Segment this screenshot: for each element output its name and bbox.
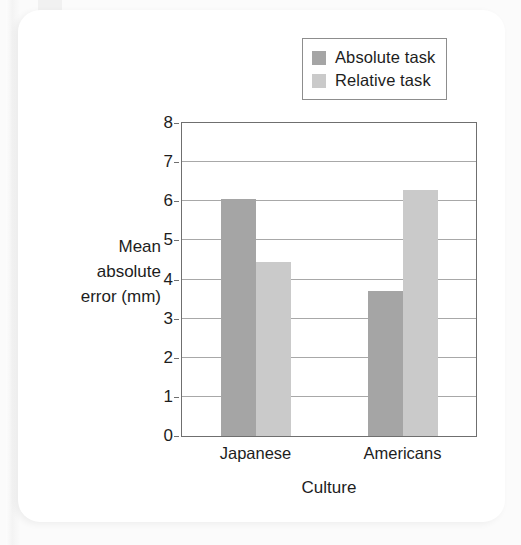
bar-japanese-relative — [256, 262, 291, 436]
y-tick-mark — [174, 397, 179, 398]
y-tick-mark — [174, 319, 179, 320]
y-tick-mark — [174, 201, 179, 202]
bar-japanese-absolute — [221, 199, 256, 436]
y-tick-label: 3 — [147, 309, 173, 329]
legend-label-absolute-task: Absolute task — [335, 48, 435, 67]
y-axis-title-line-1: absolute — [28, 259, 161, 284]
y-tick-label: 0 — [147, 426, 173, 446]
y-tick-mark — [174, 162, 179, 163]
plot-area — [181, 122, 477, 437]
legend-item-relative-task: Relative task — [312, 69, 435, 92]
y-tick-label: 8 — [147, 113, 173, 133]
y-tick-label: 7 — [147, 152, 173, 172]
legend-swatch-relative-task — [312, 74, 326, 88]
y-tick-label: 1 — [147, 387, 173, 407]
x-tick-label-americans: Americans — [364, 444, 442, 463]
y-tick-mark — [174, 123, 179, 124]
x-axis-tick-labels: JapaneseAmericans — [181, 444, 477, 470]
legend-swatch-absolute-task — [312, 51, 326, 65]
legend-item-absolute-task: Absolute task — [312, 46, 435, 69]
y-tick-mark — [174, 436, 179, 437]
legend-label-relative-task: Relative task — [335, 71, 431, 90]
bars-layer — [182, 123, 476, 436]
chart-legend: Absolute task Relative task — [302, 38, 447, 100]
y-axis-title-line-0: Mean — [28, 234, 161, 259]
bar-americans-relative — [403, 190, 438, 436]
y-axis-title-line-2: error (mm) — [28, 284, 161, 309]
bar-americans-absolute — [368, 291, 403, 436]
y-tick-mark — [174, 358, 179, 359]
y-tick-mark — [174, 280, 179, 281]
y-tick-mark — [174, 240, 179, 241]
x-tick-label-japanese: Japanese — [220, 444, 292, 463]
y-tick-label: 6 — [147, 191, 173, 211]
y-axis-title: Meanabsoluteerror (mm) — [28, 234, 161, 309]
x-axis-title: Culture — [181, 478, 477, 498]
y-tick-label: 2 — [147, 348, 173, 368]
